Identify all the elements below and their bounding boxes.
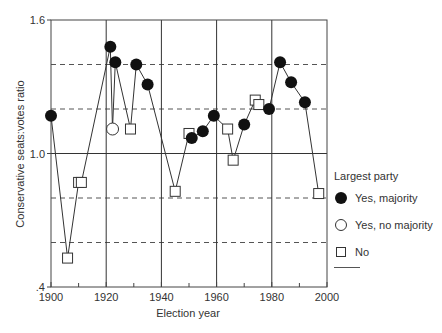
legend-label: Yes, no majority — [355, 219, 433, 231]
legend-item-no: No — [332, 238, 442, 265]
open-square-marker — [314, 189, 324, 199]
x-tick-label: 1940 — [149, 291, 173, 303]
legend-divider — [334, 267, 360, 268]
open-square-marker — [223, 124, 233, 134]
open-square-marker — [125, 124, 135, 134]
filled-circle-marker — [208, 110, 220, 122]
filled-circle-marker — [274, 56, 286, 68]
legend-label: Yes, majority — [355, 192, 418, 204]
filled-circle-marker — [197, 125, 209, 137]
filled-circle-marker — [104, 41, 116, 53]
filled-circle-marker — [238, 119, 250, 131]
x-axis-title: Election year — [156, 307, 220, 319]
x-tick-label: 2000 — [315, 291, 339, 303]
filled-circle-icon — [335, 192, 347, 204]
legend: Largest party Yes, majority Yes, no majo… — [332, 168, 442, 268]
open-circle-marker — [107, 123, 119, 135]
chart-canvas: 190019201940196019802000.41.01.6 Electio… — [0, 0, 442, 333]
open-square-marker — [76, 177, 86, 187]
y-tick-label: .4 — [36, 281, 45, 293]
x-tick-label: 1960 — [204, 291, 228, 303]
x-tick-label: 1980 — [260, 291, 284, 303]
open-circle-icon — [335, 219, 347, 231]
filled-circle-marker — [45, 110, 57, 122]
filled-circle-marker — [130, 59, 142, 71]
open-square-marker — [254, 100, 264, 110]
y-tick-label: 1.0 — [30, 148, 45, 160]
series-line — [51, 47, 319, 258]
filled-circle-marker — [142, 79, 154, 91]
y-axis-title: Conservative seats:votes ratio — [14, 80, 26, 227]
filled-circle-marker — [263, 103, 275, 115]
filled-circle-marker — [109, 56, 121, 68]
open-square-marker — [228, 155, 238, 165]
filled-circle-marker — [285, 76, 297, 88]
legend-item-yes-majority: Yes, majority — [332, 184, 442, 211]
axes: 190019201940196019802000.41.01.6 — [30, 14, 340, 303]
legend-item-yes-no-majority: Yes, no majority — [332, 211, 442, 238]
y-tick-label: 1.6 — [30, 14, 45, 26]
x-tick-label: 1920 — [94, 291, 118, 303]
open-square-marker — [170, 186, 180, 196]
legend-title: Largest party — [334, 168, 442, 184]
filled-circle-marker — [299, 96, 311, 108]
filled-circle-marker — [186, 132, 198, 144]
data-series — [45, 41, 324, 263]
legend-label: No — [355, 246, 369, 258]
open-square-icon — [336, 247, 346, 257]
open-square-marker — [63, 253, 73, 263]
